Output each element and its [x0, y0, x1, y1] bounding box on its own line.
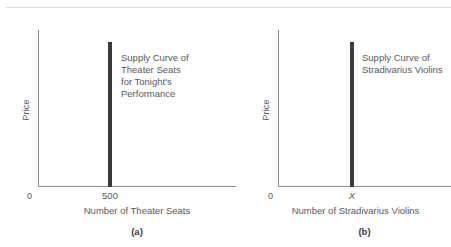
- y-axis-b: [278, 30, 279, 187]
- x-axis-b: [278, 186, 451, 187]
- origin-label-a: 0: [27, 191, 32, 201]
- supply-curve-annotation-b: Supply Curve of Stradivarius Violins: [362, 52, 443, 76]
- x-tick-label-a: 500: [90, 190, 130, 201]
- supply-curve-annotation-a: Supply Curve of Theater Seats for Tonigh…: [121, 52, 189, 100]
- origin-label-b: 0: [268, 191, 273, 201]
- x-axis-a: [38, 186, 236, 187]
- chart-panel-a: Price 0 500 Number of Theater Seats Supp…: [0, 0, 236, 247]
- y-axis-label-b: Price: [261, 90, 271, 130]
- supply-curve-line-a: [108, 42, 112, 187]
- panel-letter-a: (a): [38, 226, 236, 237]
- supply-curve-line-b: [350, 42, 354, 187]
- x-axis-title-b: Number of Stradivarius Violins: [260, 205, 451, 216]
- chart-panel-b: Price 0 X Number of Stradivarius Violins…: [240, 0, 451, 247]
- y-axis-a: [38, 30, 39, 187]
- x-axis-title-a: Number of Theater Seats: [38, 205, 236, 216]
- figure-supply-curves: Price 0 500 Number of Theater Seats Supp…: [0, 0, 451, 247]
- y-axis-label-a: Price: [21, 90, 31, 130]
- panel-letter-b: (b): [278, 226, 451, 237]
- x-tick-label-b: X: [332, 190, 372, 201]
